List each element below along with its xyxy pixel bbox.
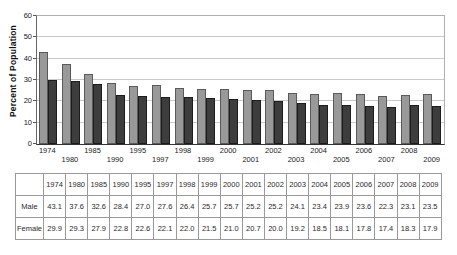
table-cell-female-1990: 22.8 [110,218,132,240]
table-header-cell-1998: 1998 [176,174,198,196]
table-cell-male-2005: 23.9 [331,196,353,218]
table-cell-male-2003: 24.1 [287,196,309,218]
table-cell-female-2008: 18.3 [397,218,419,240]
y-tick-mark [33,100,36,101]
bar-group-1997 [150,16,173,144]
x-tick-label-2009: 2009 [420,156,443,164]
bar-group-2008 [399,16,422,144]
table-cell-female-1985: 27.9 [88,218,110,240]
bar-female-2001 [252,100,261,144]
y-tick-mark [33,79,36,80]
table-cell-female-1999: 21.5 [198,218,220,240]
table-header-cell-2000: 2000 [220,174,242,196]
bar-group-2004 [308,16,331,144]
table-header-cell-2008: 2008 [397,174,419,196]
bar-male-2002 [265,90,274,144]
table-header-cell-1997: 1997 [154,174,176,196]
table-cell-male-1974: 43.1 [44,196,66,218]
table-cell-male-1990: 28.4 [110,196,132,218]
x-tick-label-2000: 2000 [217,147,240,155]
y-tick-mark [33,122,36,123]
bar-group-2007 [376,16,399,144]
table-cell-male-2001: 25.2 [242,196,264,218]
table-header-cell-2009: 2009 [419,174,441,196]
y-tick-label-50: 50 [0,33,32,40]
table-header-cell-2002: 2002 [264,174,286,196]
table-cell-female-1997: 22.1 [154,218,176,240]
table-corner-cell [16,174,44,196]
table-row-male: Male43.137.632.628.427.027.626.425.725.7… [16,196,442,218]
bar-group-1998 [173,16,196,144]
bar-group-2006 [354,16,377,144]
table-header-cell-2005: 2005 [331,174,353,196]
x-tick-label-2007: 2007 [375,156,398,164]
table-header-cell-1974: 1974 [44,174,66,196]
table-row-label: Female [16,218,44,240]
table-header-cell-2006: 2006 [353,174,375,196]
table-cell-female-2000: 21.0 [220,218,242,240]
table-cell-male-2000: 25.7 [220,196,242,218]
bar-female-1997 [161,97,170,144]
bar-male-2004 [310,94,319,144]
bar-male-1999 [197,89,206,144]
table-header-row: 1974198019851990199519971998199920002001… [16,174,442,196]
table-cell-male-2002: 25.2 [264,196,286,218]
x-tick-label-1998: 1998 [172,147,195,155]
bar-group-2000 [218,16,241,144]
bar-male-2006 [356,94,365,144]
bar-male-1990 [107,83,116,144]
bar-group-1985 [82,16,105,144]
table-cell-male-1995: 27.0 [132,196,154,218]
table-cell-female-2009: 17.9 [419,218,441,240]
data-table: 1974198019851990199519971998199920002001… [15,173,442,240]
table-header-cell-2001: 2001 [242,174,264,196]
x-tick-label-1999: 1999 [194,156,217,164]
y-tick-mark [33,15,36,16]
bar-female-1995 [138,96,147,144]
x-tick-label-2002: 2002 [262,147,285,155]
table-cell-male-2004: 23.4 [309,196,331,218]
bar-female-2005 [342,105,351,144]
table-cell-female-2002: 20.0 [264,218,286,240]
bar-female-2003 [297,103,306,144]
table-cell-female-1995: 22.6 [132,218,154,240]
x-tick-label-2004: 2004 [307,147,330,155]
table-header-cell-1999: 1999 [198,174,220,196]
bar-group-2002 [263,16,286,144]
bar-male-1997 [152,85,161,144]
x-tick-label-1985: 1985 [81,147,104,155]
bar-female-2007 [387,107,396,144]
population-percent-figure: Percent of Population 0102030405060 1974… [0,0,457,255]
bar-male-2000 [220,89,229,144]
bar-male-2009 [423,94,432,144]
bar-male-1985 [84,74,93,144]
table-cell-female-1980: 29.3 [66,218,88,240]
bar-group-1974 [37,16,60,144]
table-cell-female-1974: 29.9 [44,218,66,240]
bar-female-1974 [48,80,57,144]
bar-male-2001 [243,90,252,144]
y-tick-mark [33,58,36,59]
table-header-cell-1980: 1980 [66,174,88,196]
bar-female-2006 [365,106,374,144]
y-axis-title: Percent of Population [8,11,18,131]
table-cell-male-2006: 23.6 [353,196,375,218]
table-cell-female-1998: 22.0 [176,218,198,240]
x-tick-label-2006: 2006 [353,147,376,155]
bar-female-2000 [229,99,238,144]
y-tick-label-40: 40 [0,55,32,62]
table-cell-female-2004: 18.5 [309,218,331,240]
bar-group-2009 [421,16,444,144]
y-tick-label-30: 30 [0,76,32,83]
table-cell-female-2006: 17.8 [353,218,375,240]
table-cell-male-1985: 32.6 [88,196,110,218]
x-tick-label-1997: 1997 [149,156,172,164]
plot-area [36,15,445,145]
x-tick-label-1980: 1980 [59,156,82,164]
y-tick-label-20: 20 [0,97,32,104]
y-tick-mark [33,143,36,144]
table-header-cell-2007: 2007 [375,174,397,196]
bar-male-2005 [333,93,342,144]
table-cell-female-2001: 20.7 [242,218,264,240]
x-tick-label-2008: 2008 [398,147,421,155]
